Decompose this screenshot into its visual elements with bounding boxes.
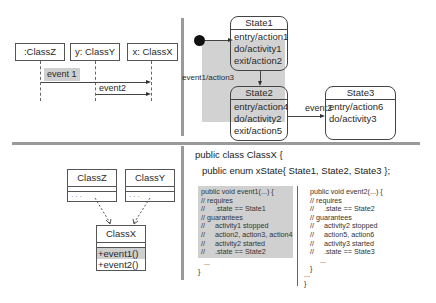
- message-event1-line: [41, 82, 146, 83]
- state-state1: State1 entry/action1 do/activity1 exit/a…: [230, 16, 288, 71]
- state-state2: State2 entry/action4 do/activity2 exit/a…: [230, 86, 288, 141]
- operation-event2: +event2(): [97, 259, 145, 270]
- initial-transition: [205, 40, 230, 41]
- state-state3: State3 entry/action6 do/activity3: [325, 86, 396, 140]
- arrowhead-icon: [146, 92, 151, 96]
- arrowhead-icon: [146, 80, 151, 84]
- state-line: entry/action6: [329, 101, 392, 113]
- class-name: ClassX: [97, 226, 145, 243]
- message-event1-label: event 1: [44, 68, 80, 81]
- message-event2-label: event2: [99, 83, 126, 94]
- class-tail: ... }: [304, 271, 310, 288]
- lifeline-line-classz: [40, 61, 41, 101]
- initial-state-icon: [194, 35, 205, 46]
- vertical-divider-bottom: [181, 146, 184, 280]
- state-title: State2: [231, 87, 287, 100]
- class-classx: ClassX +event1() +event2(): [96, 225, 146, 271]
- state-title: State1: [231, 17, 287, 30]
- transition-label: event1/action3: [182, 72, 234, 83]
- operation-event1: +event1(): [97, 248, 145, 259]
- state-line: entry/action1: [234, 31, 284, 43]
- code-panel: public class ClassX { public enum xState…: [186, 146, 436, 303]
- event1-code-tail: ... }: [198, 259, 210, 276]
- transition-state2-state3: [287, 116, 322, 117]
- lifeline-classx: x: ClassX: [127, 43, 178, 61]
- dependency-arrows: [0, 146, 180, 303]
- lifeline-line-classy: [95, 61, 96, 101]
- event2-code: public void event2(...) { // requires //…: [310, 188, 383, 274]
- enum-line: public enum xState{ State1, State2, Stat…: [202, 165, 390, 177]
- state-line: exit/action5: [234, 125, 284, 137]
- state-line: do/activity2: [234, 113, 284, 125]
- state-title: State3: [326, 87, 395, 100]
- lifeline-line-classx: [151, 61, 152, 101]
- state-diagram: State1 entry/action1 do/activity1 exit/a…: [185, 0, 436, 140]
- code-column-divider: [297, 186, 298, 286]
- state-line: do/activity1: [234, 43, 284, 55]
- state-line: do/activity3: [329, 113, 392, 125]
- event1-code: public void event1(...) { // requires //…: [201, 188, 293, 257]
- message-event2-line: [96, 94, 146, 95]
- sequence-diagram: :ClassZ y: ClassY x: ClassX event 1 even…: [0, 0, 180, 140]
- horizontal-divider: [12, 142, 420, 145]
- state-line: exit/action2: [234, 55, 284, 67]
- lifeline-classz: :ClassZ: [15, 43, 65, 61]
- class-header-line: public class ClassX {: [195, 149, 283, 161]
- class-diagram: ClassZ · · · ClassY · · · ClassX +event1…: [0, 146, 180, 303]
- state-line: entry/action4: [234, 101, 284, 113]
- lifeline-classy: y: ClassY: [70, 43, 120, 61]
